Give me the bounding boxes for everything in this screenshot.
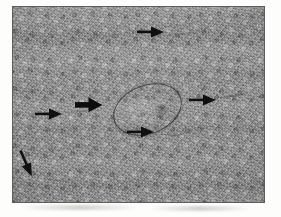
annotation-arrow-left-middle[interactable] — [35, 107, 63, 121]
figure-container — [0, 0, 281, 217]
annotation-arrow-top[interactable] — [137, 25, 165, 39]
annotation-arrow-right[interactable] — [189, 93, 217, 107]
annotation-arrow-below-oval[interactable] — [127, 125, 155, 139]
micrograph-plate[interactable] — [12, 6, 265, 203]
annotation-arrow-bottom-left[interactable] — [17, 151, 49, 185]
annotation-arrow-thick-left-of-oval[interactable] — [75, 97, 103, 113]
scan-artifact-2 — [150, 206, 250, 211]
scan-artifact-1 — [20, 205, 140, 210]
